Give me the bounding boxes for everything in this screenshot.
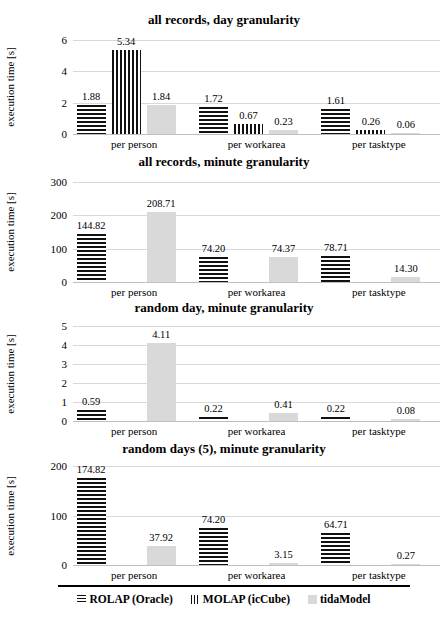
y-axis-tick: 100 [20, 510, 67, 522]
gridline [73, 345, 440, 346]
category-label: per tasktype [352, 138, 405, 150]
bar-tida [147, 343, 176, 421]
category-label: per tasktype [352, 425, 405, 437]
y-axis-tick: 3 [20, 358, 67, 370]
category-label: per workarea [228, 286, 286, 298]
bar-rolap [321, 256, 350, 282]
bar-rolap [321, 109, 350, 134]
category-label: per tasktype [352, 286, 405, 298]
y-axis-tick: 300 [20, 176, 67, 188]
y-axis-label-3: execution time [s] [4, 334, 16, 414]
chart-title-2: all records, minute granularity [0, 154, 448, 169]
category-label: per tasktype [352, 569, 405, 581]
legend-label: tidaModel [320, 593, 370, 605]
bar-tida [269, 563, 298, 565]
bar-rolap [77, 234, 106, 282]
bar-rolap [77, 410, 106, 421]
bar-tida [269, 413, 298, 421]
y-axis-tick: 6 [20, 34, 67, 46]
y-axis-tick: 2 [20, 377, 67, 389]
gridline [73, 215, 440, 216]
gridline [73, 182, 440, 183]
data-label: 0.06 [397, 119, 415, 130]
legend-items: ROLAP (Oracle)MOLAP (icCube)tidaModel [0, 593, 448, 605]
legend-label: ROLAP (Oracle) [89, 593, 172, 605]
data-label: 0.26 [362, 116, 380, 127]
bar-tida [391, 133, 420, 134]
category-label: per person [111, 425, 157, 437]
y-axis-tick: 5 [20, 320, 67, 332]
legend-item-tida[interactable]: tidaModel [308, 593, 370, 605]
chart-title-1: all records, day granularity [0, 12, 448, 27]
bar-tida [391, 419, 420, 421]
bar-rolap [77, 105, 106, 134]
y-axis-label-4: execution time [s] [4, 476, 16, 556]
bar-tida [269, 130, 298, 134]
y-axis-tick: 4 [20, 65, 67, 77]
bar-tida [391, 564, 420, 565]
legend-item-rolap[interactable]: ROLAP (Oracle) [77, 593, 172, 605]
y-axis-tick: 0 [20, 276, 67, 288]
bar-molap [356, 130, 385, 134]
chart-title-4: random days (5), minute granularity [0, 441, 448, 456]
data-label: 1.61 [327, 95, 345, 106]
data-label: 0.08 [397, 405, 415, 416]
gridline [73, 326, 440, 327]
bar-tida [147, 212, 176, 282]
data-label: 0.22 [327, 403, 345, 414]
legend-item-molap[interactable]: MOLAP (icCube) [191, 593, 290, 605]
data-label: 0.22 [204, 403, 222, 414]
y-axis-tick: 0 [20, 128, 67, 140]
legend-swatch-molap-icon [191, 595, 200, 604]
bar-rolap [321, 533, 350, 565]
chart-title-3: random day, minute granularity [0, 300, 448, 315]
data-label: 208.71 [147, 198, 176, 209]
gridline [73, 134, 440, 135]
data-label: 74.37 [272, 243, 296, 254]
legend-label: MOLAP (icCube) [203, 593, 290, 605]
gridline [73, 516, 440, 517]
data-label: 37.92 [149, 532, 173, 543]
bar-tida [147, 105, 176, 134]
gridline [73, 383, 440, 384]
y-axis-label-2: execution time [s] [4, 192, 16, 272]
category-label: per workarea [228, 425, 286, 437]
data-label: 78.71 [324, 242, 348, 253]
bar-tida [147, 546, 176, 565]
category-label: per person [111, 569, 157, 581]
bar-rolap [321, 417, 350, 421]
legend-divider [58, 585, 410, 587]
data-label: 1.84 [152, 91, 170, 102]
bar-rolap [199, 257, 228, 282]
data-label: 14.30 [394, 263, 418, 274]
data-label: 174.82 [77, 464, 106, 475]
bar-molap [234, 124, 263, 134]
legend-swatch-rolap-icon [77, 595, 86, 604]
category-label: per workarea [228, 138, 286, 150]
bar-rolap [199, 107, 228, 134]
gridline [73, 249, 440, 250]
data-label: 3.15 [274, 549, 292, 560]
gridline [73, 282, 440, 283]
y-axis-tick: 200 [20, 209, 67, 221]
data-label: 0.27 [397, 550, 415, 561]
category-label: per person [111, 138, 157, 150]
y-axis-tick: 4 [20, 339, 67, 351]
data-label: 0.23 [274, 116, 292, 127]
bar-rolap [199, 528, 228, 565]
y-axis-tick: 2 [20, 97, 67, 109]
bar-tida [391, 277, 420, 282]
data-label: 0.41 [274, 399, 292, 410]
data-label: 4.11 [152, 329, 170, 340]
category-label: per workarea [228, 569, 286, 581]
data-label: 1.72 [204, 93, 222, 104]
data-label: 0.59 [82, 396, 100, 407]
gridline [73, 466, 440, 467]
gridline [73, 364, 440, 365]
gridline [73, 402, 440, 403]
y-axis-tick: 1 [20, 396, 67, 408]
y-axis-tick: 0 [20, 559, 67, 571]
data-label: 144.82 [77, 220, 106, 231]
data-label: 0.67 [239, 110, 257, 121]
bar-rolap [199, 417, 228, 421]
